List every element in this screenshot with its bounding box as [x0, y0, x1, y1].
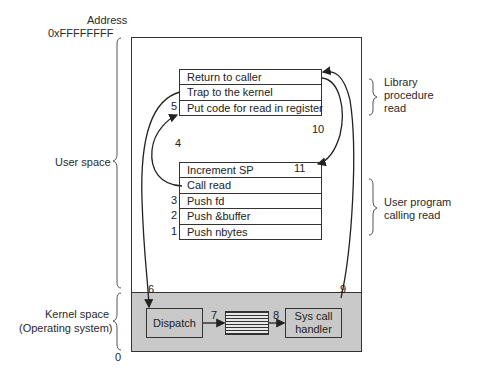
library-brace — [369, 79, 377, 115]
arrow-9 — [323, 72, 354, 298]
kernel-space-brace — [113, 293, 121, 350]
arrow-10 — [318, 78, 342, 164]
diagram-lines — [0, 0, 477, 384]
arrow-4 — [152, 115, 182, 186]
user-program-brace — [369, 179, 377, 235]
user-space-brace — [113, 38, 121, 288]
arrow-6 — [142, 92, 180, 307]
